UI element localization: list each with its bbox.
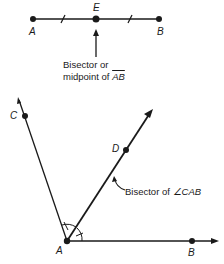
midpoint-caption-line1: Bisector or	[63, 59, 108, 70]
angle-name: CAB	[182, 186, 202, 197]
ray-ac	[19, 100, 67, 241]
label-a-vertex: A	[56, 246, 63, 256]
label-e: E	[93, 3, 100, 13]
point-c	[22, 113, 28, 119]
label-a-top: A	[29, 27, 36, 37]
label-d: D	[112, 144, 119, 154]
midpoint-caption-prefix: midpoint of	[63, 71, 112, 82]
point-a-top	[30, 16, 36, 22]
angle-symbol: ∠	[173, 186, 182, 197]
point-b-top	[156, 16, 162, 22]
point-b-bottom	[189, 238, 195, 244]
angle-arc-left	[62, 224, 76, 227]
label-c: C	[10, 111, 17, 121]
arc-tick-left	[64, 222, 68, 230]
midpoint-caption-line2: midpoint of AB	[63, 71, 125, 82]
ray-ad	[67, 113, 150, 241]
angle-bisector-caption: Bisector of ∠CAB	[125, 186, 201, 197]
label-b-bottom: B	[188, 248, 195, 258]
point-d	[123, 147, 129, 153]
segment-ab	[30, 15, 162, 23]
point-e	[93, 16, 100, 23]
angle-caption-prefix: Bisector of	[125, 186, 173, 197]
midpoint-arrow	[93, 29, 99, 57]
label-b-top: B	[157, 27, 164, 37]
vertex-a	[64, 238, 70, 244]
segment-ab-name: AB	[112, 71, 125, 82]
geometry-diagram	[0, 0, 224, 264]
angle-cab	[17, 97, 219, 244]
